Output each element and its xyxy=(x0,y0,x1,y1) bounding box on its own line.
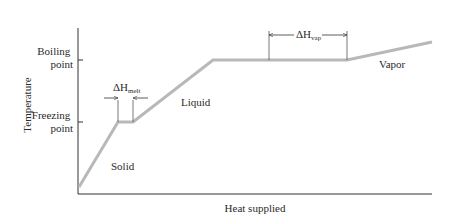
liquid-label: Liquid xyxy=(181,96,211,108)
delta-h-melt-label: ΔHmelt xyxy=(113,81,141,95)
x-axis-title: Heat supplied xyxy=(225,202,286,214)
y-axis-title: Temperature xyxy=(21,77,33,133)
freezing-point-label: Freezing point xyxy=(32,109,73,134)
vapor-label: Vapor xyxy=(379,58,406,70)
delta-h-vap-label: ΔHvap xyxy=(296,28,322,42)
boiling-point-label: Boiling point xyxy=(37,45,73,70)
heating-curve-diagram: Boiling point Freezing point Temperature… xyxy=(0,0,455,224)
delta-h-vap-annotation: ΔHvap xyxy=(269,28,347,60)
solid-label: Solid xyxy=(111,160,135,172)
